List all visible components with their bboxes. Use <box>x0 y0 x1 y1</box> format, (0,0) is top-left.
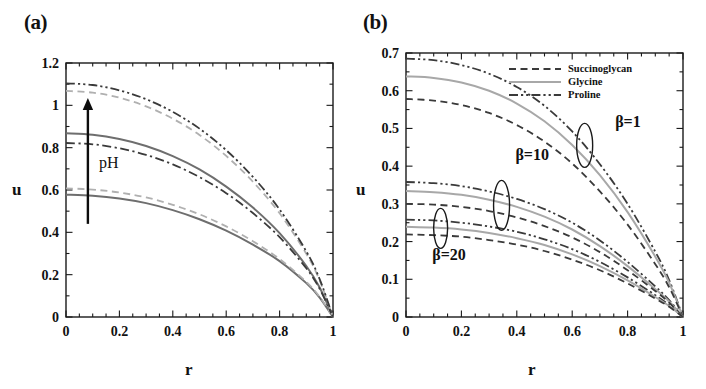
y-tick-label: 0.2 <box>382 235 400 250</box>
panel-b-plot: 00.10.20.30.40.50.60.700.20.40.60.81β=1β… <box>353 0 706 389</box>
data-curve <box>66 83 333 317</box>
legend-line-sample <box>508 77 562 87</box>
panel-a-plot: 00.20.40.60.811.200.20.40.60.81pH <box>0 0 353 389</box>
ph-annotation: pH <box>99 154 119 172</box>
beta-annotation: β=10 <box>515 146 549 164</box>
x-tick-label: 0.6 <box>563 324 581 339</box>
data-curve <box>406 76 683 317</box>
legend-item: Succinoglycan <box>508 62 632 75</box>
y-tick-label: 0 <box>392 310 399 325</box>
x-tick-label: 0.4 <box>508 324 526 339</box>
y-tick-label: 0.6 <box>42 183 60 198</box>
x-tick-label: 1 <box>330 324 337 339</box>
x-tick-label: 0.6 <box>217 324 235 339</box>
data-curve <box>406 227 683 317</box>
legend-label: Succinoglycan <box>568 62 632 75</box>
y-tick-label: 0.6 <box>382 84 400 99</box>
legend-line-sample <box>508 64 562 74</box>
x-tick-label: 0.8 <box>271 324 289 339</box>
legend-label: Glycine <box>568 75 602 88</box>
data-curve <box>66 91 333 317</box>
legend-line-sample <box>508 90 562 100</box>
beta-annotation: β=20 <box>432 246 466 264</box>
x-tick-label: 1 <box>680 324 687 339</box>
data-curve <box>66 195 333 317</box>
y-tick-label: 0 <box>52 310 59 325</box>
y-tick-label: 1.2 <box>42 56 60 71</box>
legend-item: Glycine <box>508 75 632 88</box>
x-tick-label: 0 <box>403 324 410 339</box>
x-tick-label: 0.4 <box>164 324 182 339</box>
ph-arrow-head <box>83 98 93 110</box>
y-tick-label: 0.7 <box>382 46 400 61</box>
figure-container: (a) u r 00.20.40.60.811.200.20.40.60.81p… <box>0 0 706 389</box>
y-tick-label: 0.4 <box>382 159 400 174</box>
y-tick-label: 0.1 <box>382 272 400 287</box>
y-tick-label: 1 <box>52 98 59 113</box>
y-tick-label: 0.8 <box>42 141 60 156</box>
x-tick-label: 0 <box>63 324 70 339</box>
data-curve <box>406 99 683 317</box>
y-tick-label: 0.4 <box>42 225 60 240</box>
y-tick-label: 0.3 <box>382 197 400 212</box>
legend: SuccinoglycanGlycineProline <box>508 62 632 101</box>
x-tick-label: 0.8 <box>619 324 637 339</box>
group-marker-ellipse <box>494 180 510 230</box>
x-tick-label: 0.2 <box>453 324 471 339</box>
legend-item: Proline <box>508 88 632 101</box>
y-tick-label: 0.5 <box>382 121 400 136</box>
legend-label: Proline <box>568 88 600 101</box>
x-tick-label: 0.2 <box>111 324 129 339</box>
beta-annotation: β=1 <box>615 113 641 131</box>
y-tick-label: 0.2 <box>42 268 60 283</box>
panel-b: (b) u r 00.10.20.30.40.50.60.700.20.40.6… <box>353 0 706 389</box>
panel-a: (a) u r 00.20.40.60.811.200.20.40.60.81p… <box>0 0 353 389</box>
